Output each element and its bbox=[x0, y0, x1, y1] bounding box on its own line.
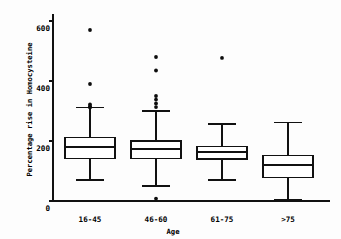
y-tick-label-0-wrapper: 0 bbox=[26, 196, 50, 215]
outlier-61-75-0 bbox=[220, 56, 224, 60]
outlier-46-60-2 bbox=[154, 94, 158, 98]
y-tick-label-600-wrapper: 600 bbox=[26, 16, 50, 35]
box->75 bbox=[263, 155, 313, 178]
boxplot-canvas bbox=[0, 0, 341, 239]
x-tick-label-3-wrapper: >75 bbox=[263, 207, 313, 226]
box-group-46-60 bbox=[131, 55, 181, 200]
outlier-46-60-5 bbox=[154, 105, 158, 109]
outlier-46-60-0 bbox=[154, 55, 158, 59]
y-tick-label-600: 600 bbox=[36, 24, 50, 33]
x-tick-label-0-wrapper: 16-45 bbox=[65, 207, 115, 226]
x-tick-label-2-wrapper: 61-75 bbox=[197, 207, 247, 226]
box-group-16-45 bbox=[65, 28, 115, 180]
y-axis-title-wrapper: Percentage rise in Homocysteine bbox=[17, 30, 36, 190]
y-tick-label-400-wrapper: 400 bbox=[26, 76, 50, 95]
y-axis-title: Percentage rise in Homocysteine bbox=[25, 42, 34, 176]
x-tick-label-61-75: 61-75 bbox=[211, 215, 234, 224]
x-axis-title-wrapper: Age bbox=[143, 219, 203, 238]
x-tick-label-over-75: >75 bbox=[281, 215, 295, 224]
outlier-16-45-4 bbox=[88, 106, 92, 110]
outlier-46-60-1 bbox=[154, 69, 158, 73]
x-tick-label-16-45: 16-45 bbox=[79, 215, 102, 224]
outlier-16-45-0 bbox=[88, 28, 92, 32]
y-tick-label-200-wrapper: 200 bbox=[26, 136, 50, 155]
outlier-16-45-1 bbox=[88, 82, 92, 86]
box-group-61-75 bbox=[197, 56, 247, 180]
box-group->75 bbox=[263, 122, 313, 199]
y-tick-label-400: 400 bbox=[36, 84, 50, 93]
outlier-46-60-6 bbox=[154, 197, 158, 201]
y-tick-label-200: 200 bbox=[36, 144, 50, 153]
outlier-46-60-4 bbox=[154, 102, 158, 106]
outlier-46-60-3 bbox=[154, 98, 158, 102]
boxplot-figure: Percentage rise in Homocysteine 600 400 … bbox=[0, 0, 341, 239]
y-tick-label-0: 0 bbox=[45, 204, 50, 213]
x-axis-title: Age bbox=[167, 227, 180, 236]
